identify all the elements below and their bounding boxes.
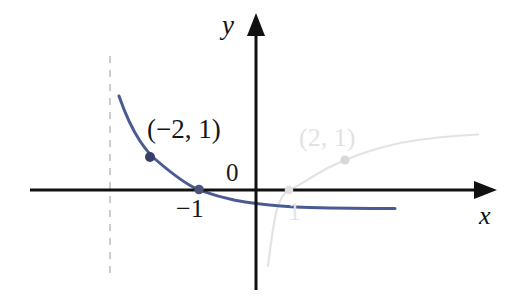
y-axis-label: y [222,12,234,39]
gray-point-label: (2, 1) [299,125,355,151]
blue-point-label: (−2, 1) [147,116,221,143]
plot-canvas [0,0,520,299]
x-intercept-tick-label: −1 [176,196,204,222]
blue-x-intercept-marker [194,185,204,195]
gray-x-intercept-tick-label: 1 [288,199,301,225]
x-axis-label: x [479,203,491,229]
math-figure: y x 0 (−2, 1) (2, 1) −1 1 [0,0,520,299]
y-axis-arrowhead [247,13,265,36]
x-axis-arrowhead [474,181,497,199]
blue-point-marker [145,152,155,162]
origin-label: 0 [226,160,239,185]
gray-x-intercept-marker [285,186,294,195]
gray-point-marker [340,155,349,164]
